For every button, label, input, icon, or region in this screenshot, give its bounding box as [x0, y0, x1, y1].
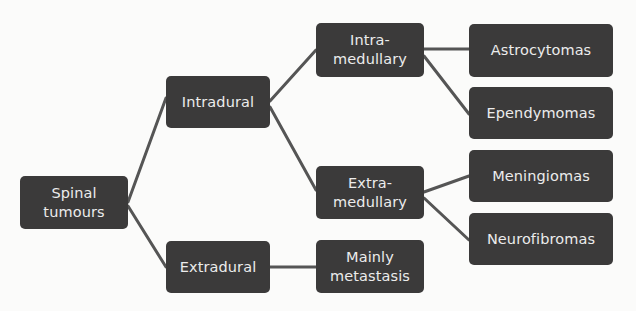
- node-neurofibromas: Neurofibromas: [469, 213, 613, 265]
- edge-intradural-intramedullary: [270, 50, 316, 101]
- edge-extramedullary-neurofibromas: [424, 198, 469, 240]
- node-intramedullary: Intra- medullary: [316, 23, 424, 77]
- node-meningiomas: Meningiomas: [469, 150, 613, 202]
- node-mainly-metastasis: Mainly metastasis: [316, 240, 424, 293]
- edge-extramedullary-meningiomas: [424, 176, 469, 192]
- edge-intradural-extramedullary: [270, 107, 316, 190]
- edge-intramedullary-ependymomas: [424, 56, 469, 114]
- node-extradural: Extradural: [166, 241, 270, 293]
- node-spinal-tumours: Spinal tumours: [20, 176, 128, 229]
- edge-spinal-extradural: [128, 206, 166, 267]
- node-intradural: Intradural: [166, 76, 270, 128]
- edge-spinal-intradural: [128, 98, 166, 202]
- node-astrocytomas: Astrocytomas: [469, 24, 613, 77]
- node-extramedullary: Extra- medullary: [316, 166, 424, 219]
- node-ependymomas: Ependymomas: [469, 87, 613, 139]
- spinal-tumours-tree-diagram: Spinal tumours Intradural Extradural Int…: [0, 0, 636, 311]
